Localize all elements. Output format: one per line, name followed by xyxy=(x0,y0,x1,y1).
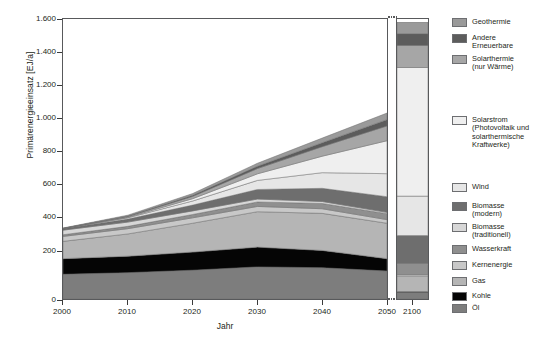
axis-break-top xyxy=(388,16,397,19)
area-2100-l xyxy=(397,292,428,299)
legend-swatch xyxy=(452,223,467,232)
plot-panel-main xyxy=(62,18,388,300)
y-tick-label: 400 xyxy=(43,213,56,221)
y-tick-label: 1.000 xyxy=(36,114,56,122)
legend-swatch xyxy=(452,304,467,313)
legend-item-label: Solarthermie (nur Wärme) xyxy=(472,55,514,72)
legend-item-label: Biomasse (modern) xyxy=(472,202,504,219)
axis-break-dot xyxy=(391,298,393,300)
legend-item[interactable]: Kernenergie xyxy=(452,261,512,270)
stacked-area-2100 xyxy=(397,19,428,299)
x-tick-label: 2000 xyxy=(42,307,82,316)
x-tick-mark xyxy=(62,300,63,305)
legend-swatch xyxy=(452,116,467,125)
legend-swatch xyxy=(452,261,467,270)
legend-item[interactable]: Geothermie xyxy=(452,18,511,27)
legend-swatch xyxy=(452,202,467,211)
y-tick-label: 600 xyxy=(43,180,56,188)
legend-item[interactable]: Öl xyxy=(452,304,479,313)
legend-swatch xyxy=(452,55,467,64)
y-tick-label: 1.600 xyxy=(36,15,56,23)
x-tick-mark xyxy=(257,300,258,305)
legend-swatch xyxy=(452,292,467,301)
x-axis-label: Jahr xyxy=(62,321,388,331)
legend-item-label: Geothermie xyxy=(472,18,511,26)
x-tick-label: 2020 xyxy=(172,307,212,316)
legend-item[interactable]: Wasserkraft xyxy=(452,245,511,254)
y-axis-ticks: 1.600 1.400 1.200 1.000 800 600 400 200 … xyxy=(18,0,56,343)
legend-item[interactable]: Andere Erneuerbare xyxy=(452,34,513,51)
area-2100-solarstrom-photovoltaik-und-solarthermische-kraftwerke xyxy=(397,68,428,196)
y-tick-label: 0 xyxy=(52,296,56,304)
area-2100-wasserkraft xyxy=(397,264,428,274)
area-2100-gas xyxy=(397,276,428,292)
legend-swatch xyxy=(452,277,467,286)
legend-item[interactable]: Biomasse (traditionell) xyxy=(452,223,511,240)
x-tick-label: 2010 xyxy=(107,307,147,316)
legend-item-label: Wind xyxy=(472,183,489,191)
axis-break-dot xyxy=(393,16,395,18)
legend-item-label: Wasserkraft xyxy=(472,245,511,253)
axis-break-dot xyxy=(391,16,393,18)
legend-item-label: Andere Erneuerbare xyxy=(472,34,513,51)
x-tick-mark xyxy=(387,300,388,305)
axis-break-dot xyxy=(393,298,395,300)
legend-item[interactable]: Kohle xyxy=(452,292,491,301)
axis-break-dot xyxy=(396,298,398,300)
y-tick-label: 200 xyxy=(43,247,56,255)
x-tick-label: 2040 xyxy=(302,307,342,316)
area-2100-geothermie xyxy=(397,22,428,34)
legend-item-label: Biomasse (traditionell) xyxy=(472,223,511,240)
area-2100-solarthermie-nur-w-rme xyxy=(397,45,428,67)
legend-item[interactable]: Biomasse (modern) xyxy=(452,202,504,219)
legend-swatch xyxy=(452,34,467,43)
y-tick-label: 1.200 xyxy=(36,81,56,89)
legend-swatch xyxy=(452,18,467,27)
stacked-area-main xyxy=(63,19,387,299)
x-tick-label-2100: 2100 xyxy=(392,307,432,316)
legend-item-label: Kernenergie xyxy=(472,261,512,269)
axis-break-bottom xyxy=(388,298,397,301)
legend-swatch xyxy=(452,245,467,254)
chart-legend: GeothermieAndere ErneuerbareSolarthermie… xyxy=(452,8,546,308)
y-tick-label: 800 xyxy=(43,147,56,155)
x-tick-mark xyxy=(412,300,413,305)
legend-item[interactable]: Wind xyxy=(452,183,489,192)
legend-item-label: Öl xyxy=(472,304,479,312)
legend-item-label: Gas xyxy=(472,277,486,285)
legend-swatch xyxy=(452,183,467,192)
area-2100-andere-erneuerbare xyxy=(397,34,428,46)
x-tick-mark xyxy=(127,300,128,305)
x-tick-label: 2030 xyxy=(237,307,277,316)
axis-break-dot xyxy=(388,298,390,300)
legend-item-label: Solarstrom (Photovoltaik und solarthermi… xyxy=(472,116,529,150)
x-tick-mark xyxy=(192,300,193,305)
axis-break-dot xyxy=(388,16,390,18)
area-2100-biomasse-modern xyxy=(397,236,428,264)
plot-panel-2100 xyxy=(396,18,429,300)
y-tick-label: 1.400 xyxy=(36,48,56,56)
legend-item[interactable]: Solarstrom (Photovoltaik und solarthermi… xyxy=(452,116,529,150)
legend-item-label: Kohle xyxy=(472,292,491,300)
axis-break-dot xyxy=(396,16,398,18)
area-2100-wind xyxy=(397,196,428,236)
legend-item[interactable]: Solarthermie (nur Wärme) xyxy=(452,55,514,72)
legend-item[interactable]: Gas xyxy=(452,277,486,286)
x-tick-mark xyxy=(322,300,323,305)
chart-root: Primärenergieeinsatz [EJ/a] 1.600 1.400 … xyxy=(0,0,546,343)
